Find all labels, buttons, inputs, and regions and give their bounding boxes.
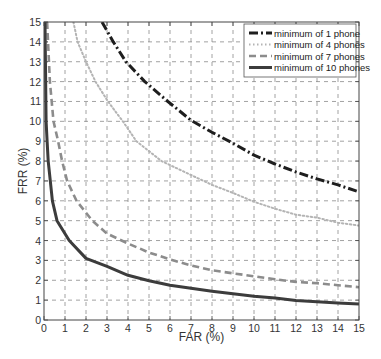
x-tick-label: 9 xyxy=(230,322,236,334)
y-tick-label: 7 xyxy=(35,175,41,187)
y-tick-label: 11 xyxy=(30,95,41,107)
y-tick-label: 12 xyxy=(29,76,41,88)
y-tick-label: 14 xyxy=(29,36,41,48)
y-tick-label: 8 xyxy=(35,155,41,167)
y-tick-label: 2 xyxy=(35,274,41,286)
x-tick-label: 14 xyxy=(332,322,344,334)
x-tick-label: 2 xyxy=(83,322,89,334)
y-tick-label: 1 xyxy=(35,294,41,306)
x-tick-label: 0 xyxy=(41,322,47,334)
y-tick-label: 6 xyxy=(35,195,41,207)
x-tick-label: 13 xyxy=(311,322,323,334)
x-tick-label: 15 xyxy=(353,322,365,334)
legend-label: minimum of 1 phone xyxy=(274,28,360,39)
x-tick-label: 5 xyxy=(146,322,152,334)
y-tick-label: 5 xyxy=(35,215,41,227)
y-tick-label: 4 xyxy=(35,235,41,247)
y-tick-label: 13 xyxy=(29,56,41,68)
x-tick-label: 12 xyxy=(290,322,302,334)
x-tick-label: 11 xyxy=(270,322,281,334)
y-tick-label: 9 xyxy=(35,135,41,147)
y-tick-label: 10 xyxy=(29,115,41,127)
legend-label: minimum of 7 phones xyxy=(274,51,365,62)
x-tick-label: 1 xyxy=(62,322,68,334)
y-tick-label: 3 xyxy=(35,254,41,266)
legend: minimum of 1 phoneminimum of 4 phonesmin… xyxy=(244,24,370,77)
x-tick-label: 10 xyxy=(248,322,260,334)
x-tick-label: 3 xyxy=(104,322,110,334)
y-tick-label: 0 xyxy=(35,314,41,326)
legend-label: minimum of 4 phones xyxy=(274,39,365,50)
legend-label: minimum of 10 phones xyxy=(274,62,370,73)
y-axis-label: FRR (%) xyxy=(16,148,30,195)
y-tick-label: 15 xyxy=(29,16,41,28)
far-frr-chart: 0123456789101112131415012345678910111213… xyxy=(0,0,381,359)
x-tick-label: 4 xyxy=(125,322,131,334)
x-axis-label: FAR (%) xyxy=(179,330,224,344)
x-tick-label: 6 xyxy=(167,322,173,334)
